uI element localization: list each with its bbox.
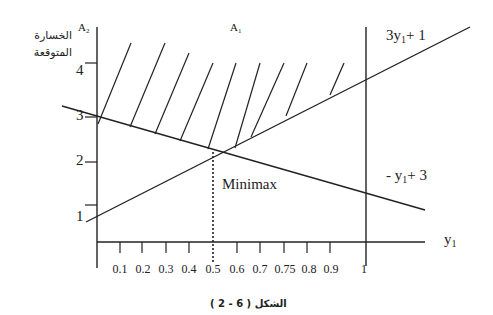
x-tick-label: 0.9: [324, 262, 339, 277]
y-axis-label: الخسارة المتوقعة: [18, 30, 72, 58]
line-minus-y1-plus-3-label: - y1+ 3: [386, 168, 427, 185]
x-tick-label: 0.75: [275, 262, 296, 277]
x-tick-label: 0.4: [182, 262, 197, 277]
x-ticks: [120, 242, 330, 253]
diagram-canvas: [0, 0, 493, 315]
x-tick-label: 0.5: [206, 262, 221, 277]
x-tick-label: 0.2: [136, 262, 151, 277]
x-tick-label: 0.7: [253, 262, 268, 277]
minimax-label: Minimax: [222, 177, 277, 192]
line-3y1-plus-1-label: 3y1+ 1: [386, 28, 426, 45]
y-tick-label-4: 4: [76, 62, 84, 79]
x-tick-label: 0.1: [113, 262, 128, 277]
figure-caption: الشكل ( 6 - 2 ): [210, 299, 287, 309]
line-3y1-plus-1: [86, 27, 470, 222]
x-axis-label: y1: [444, 232, 457, 249]
label-a1: A1: [230, 22, 241, 35]
x-tick-label: 0.3: [159, 262, 174, 277]
x-tick-label: 0.8: [302, 262, 317, 277]
hatched-region: [98, 43, 344, 149]
y-axis-label-line1: الخسارة: [18, 30, 72, 41]
y-tick-label-3: 3: [76, 107, 84, 124]
line-minus-y1-plus-3: [62, 106, 425, 210]
y-axis-label-line2: المتوقعة: [18, 47, 72, 58]
y-tick-label-1: 1: [76, 208, 84, 225]
x-tick-label: 0.6: [230, 262, 245, 277]
y-ticks: [85, 63, 97, 205]
x-tick-label: 1: [361, 262, 367, 277]
y-tick-label-2: 2: [76, 152, 84, 169]
label-a2: A2: [78, 22, 89, 35]
